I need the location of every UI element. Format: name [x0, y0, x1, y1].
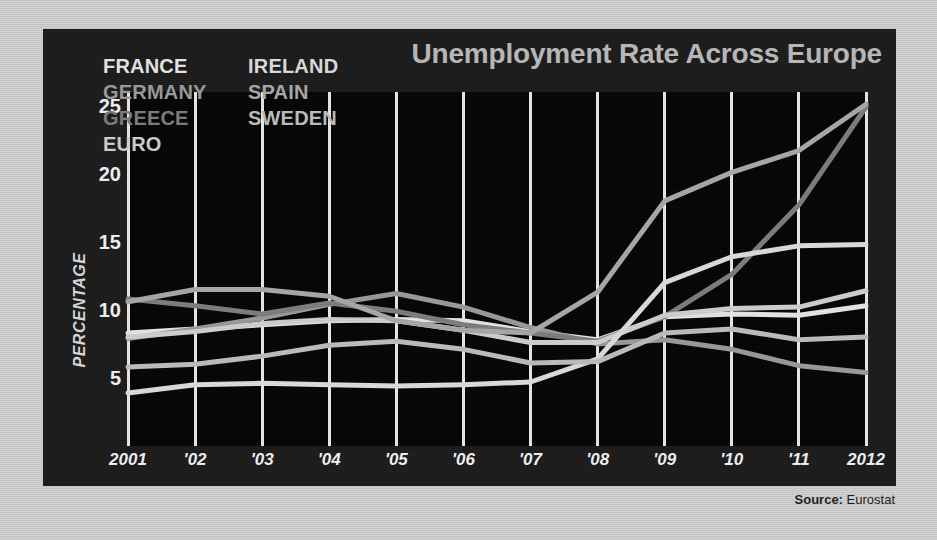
legend-column: FRANCEGERMANYGREECEEURO: [103, 53, 207, 157]
x-axis-tick-label: '10: [697, 450, 767, 470]
x-axis-tick-label: '05: [361, 450, 431, 470]
legend-item-france[interactable]: FRANCE: [103, 53, 207, 79]
legend-item-germany[interactable]: GERMANY: [103, 79, 207, 105]
legend-item-spain[interactable]: SPAIN: [248, 79, 338, 105]
source-value: Eurostat: [847, 492, 895, 507]
x-axis-tick-label: '02: [160, 450, 230, 470]
y-axis-title: PERCENTAGE: [71, 235, 89, 385]
chart-title: Unemployment Rate Across Europe: [412, 38, 882, 70]
plot-area: [128, 92, 866, 446]
legend-column: IRELANDSPAINSWEDEN: [248, 53, 338, 131]
series-lines: [128, 92, 866, 446]
legend-item-greece[interactable]: GREECE: [103, 105, 207, 131]
x-axis-tick-label: '04: [294, 450, 364, 470]
x-axis-tick-label: '03: [227, 450, 297, 470]
source-attribution: Source: Eurostat: [795, 492, 895, 507]
legend-item-sweden[interactable]: SWEDEN: [248, 105, 338, 131]
x-axis-tick-label: 2001: [93, 450, 163, 470]
series-line: [128, 104, 866, 333]
chart-panel: Unemployment Rate Across Europe 51015202…: [43, 29, 896, 486]
legend-item-ireland[interactable]: IRELAND: [248, 53, 338, 79]
x-axis-tick-label: '08: [563, 450, 633, 470]
x-axis-tick-labels: 2001'02'03'04'05'06'07'08'09'10'112012: [128, 450, 866, 480]
x-axis-tick-label: '07: [496, 450, 566, 470]
x-axis-tick-label: 2012: [831, 450, 896, 470]
x-axis-tick-label: '09: [630, 450, 700, 470]
source-label: Source:: [795, 492, 843, 507]
x-axis-tick-label: '06: [428, 450, 498, 470]
x-axis-tick-label: '11: [764, 450, 834, 470]
chart-page: Unemployment Rate Across Europe 51015202…: [0, 0, 937, 540]
legend-item-euro[interactable]: EURO: [103, 131, 207, 157]
y-axis-tick-label: 20: [75, 164, 121, 184]
